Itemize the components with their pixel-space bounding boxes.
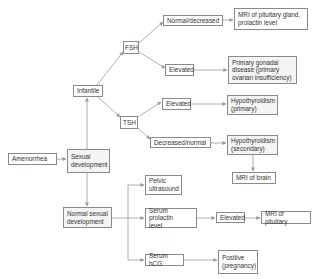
node-tsh-elevated: Elevated (162, 98, 191, 110)
node-primary-gonadal-disease: Primary gonadal disease (primary ovarian… (228, 56, 297, 84)
node-positive-pregnancy: Positive (pregnancy) (218, 250, 258, 274)
node-fsh-elevated: Elevated (165, 64, 194, 76)
node-fsh: FSH (123, 41, 139, 54)
node-infantile: Infantile (73, 85, 103, 97)
node-normal-sexual-development: Normal sexual development (63, 207, 112, 228)
node-amenorrhea: Amenorrhea (8, 153, 57, 165)
node-pelvic-ultrasound: Pelvic ultrasound (145, 175, 182, 195)
node-mri-pituitary-gland: MRI of pituitary gland, prolactin level (234, 8, 308, 30)
node-serum-hcg: Serum hCG (145, 254, 184, 266)
node-sexual-development: Sexual development (67, 149, 110, 173)
node-serum-prolactin: Serum prolactin level (145, 208, 197, 228)
node-fsh-normal-decreased: Normal/decreased (163, 15, 223, 26)
node-tsh: TSH (120, 116, 138, 129)
node-mri-pituitary: MRI of pituitary (261, 211, 311, 224)
node-tsh-decreased-normal: Decreased/normal (150, 137, 211, 148)
node-prolactin-elevated: Elevated (216, 212, 245, 223)
node-mri-brain: MRI of brain (232, 172, 276, 184)
node-hypothyroidism-primary: Hypothyroidism (primary) (227, 95, 278, 115)
node-hypothyroidism-secondary: Hypothyroidism (secondary) (227, 135, 278, 155)
